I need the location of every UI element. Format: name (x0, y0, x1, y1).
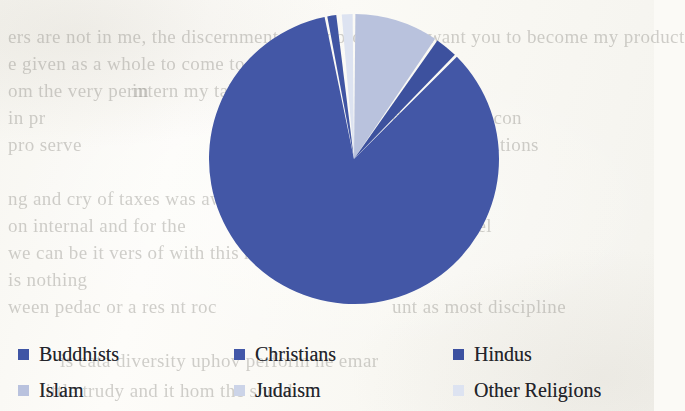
pie-chart (208, 13, 500, 305)
pie-slice-christians[interactable] (209, 17, 499, 304)
legend-swatch-judaism (234, 385, 245, 396)
legend-swatch-hindus (453, 349, 464, 360)
legend-item-buddhists[interactable]: Buddhists (0, 336, 220, 372)
pie-chart-area (0, 0, 654, 330)
chart-legend: Buddhists Christians Hindus Islam Judais… (0, 336, 654, 411)
legend-item-other-religions[interactable]: Other Religions (440, 372, 654, 408)
legend-swatch-christians (234, 349, 245, 360)
legend-item-hindus[interactable]: Hindus (440, 336, 654, 372)
legend-label-other-religions: Other Religions (474, 380, 601, 400)
legend-label-judaism: Judaism (255, 380, 321, 400)
legend-item-christians[interactable]: Christians (220, 336, 440, 372)
legend-item-islam[interactable]: Islam (0, 372, 220, 408)
legend-label-christians: Christians (255, 344, 336, 364)
legend-row: Islam Judaism Other Religions (0, 372, 654, 408)
legend-label-hindus: Hindus (474, 344, 532, 364)
legend-item-judaism[interactable]: Judaism (220, 372, 440, 408)
legend-row: Buddhists Christians Hindus (0, 336, 654, 372)
legend-label-islam: Islam (39, 380, 83, 400)
pie-chart-svg (208, 13, 500, 305)
legend-label-buddhists: Buddhists (39, 344, 119, 364)
legend-swatch-other-religions (453, 385, 464, 396)
legend-swatch-islam (18, 385, 29, 396)
pie-slice-group (209, 14, 499, 304)
legend-swatch-buddhists (18, 349, 29, 360)
